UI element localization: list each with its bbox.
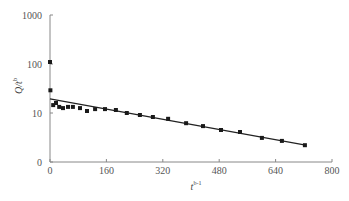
x-tick-label: 800 [325,165,340,176]
data-point-marker [103,107,107,111]
y-tick-label: 0 [37,157,42,168]
data-point-marker [71,105,75,109]
x-axis-label-superscript: b-1 [193,180,201,186]
data-point-marker [78,106,82,110]
y-axis-ticks: 0101001000 [22,10,53,168]
y-axis-label-main: Q/t [13,81,24,94]
data-point-marker [48,88,52,92]
data-point-marker [184,121,188,125]
data-point-marker [93,107,97,111]
data-point-marker [219,128,223,132]
data-point-marker [151,115,155,119]
chart-container: 0160320480640800 0101001000 tb-1 Q/tb [0,0,349,201]
data-point-marker [61,106,65,110]
x-tick-label: 480 [212,165,227,176]
x-tick-label: 640 [268,165,283,176]
data-point-marker [201,124,205,128]
regression-line [50,99,306,145]
data-point-marker [303,143,307,147]
x-tick-label: 160 [99,165,114,176]
data-point-marker [48,60,52,64]
x-axis-label: tb-1 [191,180,202,192]
data-point-marker [280,139,284,143]
data-points [48,60,307,147]
y-tick-label: 1000 [22,10,42,21]
axes [50,15,332,162]
x-tick-label: 0 [48,165,53,176]
data-point-marker [238,130,242,134]
data-point-marker [125,111,129,115]
y-tick-label: 100 [27,59,42,70]
y-axis-label-superscript: b [12,78,18,81]
y-axis-label: Q/tb [12,78,24,94]
data-point-marker [66,105,70,109]
data-point-marker [85,109,89,113]
data-point-marker [54,101,58,105]
data-point-marker [57,105,61,109]
data-point-marker [260,136,264,140]
data-point-marker [114,108,118,112]
y-tick-label: 10 [32,108,42,119]
fit-line [50,99,306,145]
data-point-marker [138,113,142,117]
x-tick-label: 320 [155,165,170,176]
data-point-marker [166,117,170,121]
scatter-plot: 0160320480640800 0101001000 tb-1 Q/tb [0,0,349,201]
